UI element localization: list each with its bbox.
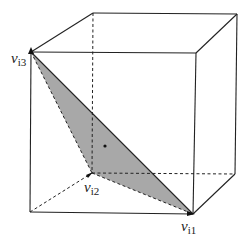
front-top-edge <box>31 52 196 53</box>
front-left-edge <box>30 52 31 212</box>
cube-diagram: vi3 vi2 vi1 <box>0 0 248 240</box>
bottom-right-depth-edge <box>193 174 235 214</box>
label-vi3: vi3 <box>11 50 27 68</box>
top-right-depth-edge <box>196 14 237 53</box>
front-right-edge <box>193 53 196 214</box>
back-top-edge <box>93 13 237 14</box>
label-vi2: vi2 <box>84 179 99 197</box>
front-bottom-edge <box>30 212 193 214</box>
bottom-left-depth-edge <box>30 173 92 212</box>
edge-vi3-vi1 <box>31 52 193 214</box>
label-vi1: vi1 <box>181 218 196 236</box>
centroid-dot <box>103 144 106 147</box>
top-left-depth-edge <box>31 13 93 52</box>
back-right-edge <box>235 14 237 174</box>
vertex-vi2-marker <box>86 172 93 178</box>
